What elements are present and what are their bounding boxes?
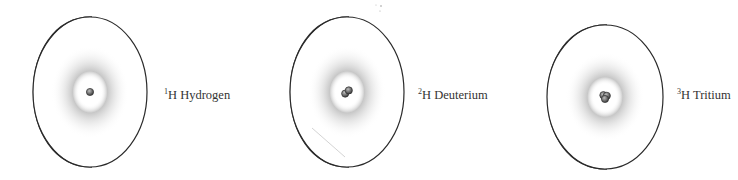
label-tritium: 3H Tritium: [677, 89, 731, 102]
nucleus-icon: [86, 88, 93, 95]
element-symbol: H: [168, 88, 177, 102]
label-hydrogen: 1H Hydrogen: [164, 89, 230, 102]
element-symbol: H: [422, 88, 431, 102]
label-deuterium: 2H Deuterium: [418, 89, 488, 102]
atom-hydrogen: [33, 17, 147, 167]
isotope-diagram: [0, 0, 738, 180]
mass-number: 1: [164, 87, 168, 96]
isotope-name: Tritium: [693, 88, 731, 102]
atom-deuterium: [290, 17, 404, 167]
element-symbol: H: [681, 88, 690, 102]
isotope-name: Hydrogen: [180, 88, 230, 102]
speck-mark: [375, 4, 381, 11]
atom-tritium: [547, 25, 663, 169]
mass-number: 2: [418, 87, 422, 96]
mass-number: 3: [677, 87, 681, 96]
isotope-name: Deuterium: [434, 88, 487, 102]
